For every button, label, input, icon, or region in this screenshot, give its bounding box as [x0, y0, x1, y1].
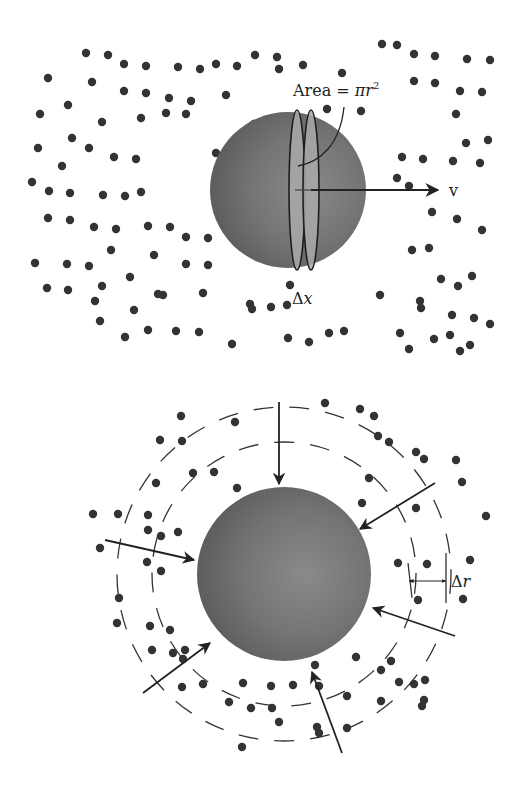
particle — [199, 289, 207, 297]
particle — [231, 418, 239, 426]
particle — [377, 697, 385, 705]
particle — [374, 432, 382, 440]
particle — [417, 304, 425, 312]
particle — [150, 251, 158, 259]
particle — [356, 405, 364, 413]
particle — [181, 646, 189, 654]
particle — [454, 282, 462, 290]
particle — [126, 273, 134, 281]
particle — [456, 87, 464, 95]
particle — [132, 155, 140, 163]
particle — [165, 94, 173, 102]
particle — [284, 334, 292, 342]
particle — [321, 399, 329, 407]
particle — [166, 626, 174, 634]
diagram-canvas: Area = πr2 v Δx Δr — [0, 0, 528, 785]
particle — [462, 139, 470, 147]
particle — [222, 91, 230, 99]
particle — [174, 63, 182, 71]
particle — [157, 532, 165, 540]
particle — [323, 105, 331, 113]
particle — [115, 594, 123, 602]
particle — [177, 412, 185, 420]
particle — [357, 107, 365, 115]
particle — [420, 455, 428, 463]
particle — [68, 134, 76, 142]
area-label: Area = πr2 — [292, 80, 379, 100]
particle — [468, 272, 476, 280]
particle — [91, 297, 99, 305]
particle — [159, 291, 167, 299]
particle — [410, 50, 418, 58]
particle — [178, 437, 186, 445]
particle — [478, 226, 486, 234]
particle — [148, 646, 156, 654]
particle — [456, 347, 464, 355]
particle — [64, 286, 72, 294]
particle — [452, 456, 460, 464]
particle — [377, 666, 385, 674]
particle — [412, 448, 420, 456]
particle — [482, 512, 490, 520]
particle — [446, 331, 454, 339]
particle — [398, 153, 406, 161]
particle — [325, 329, 333, 337]
particle — [299, 61, 307, 69]
particle — [430, 335, 438, 343]
particle — [172, 327, 180, 335]
particle — [466, 556, 474, 564]
particle — [85, 262, 93, 270]
particle — [104, 51, 112, 59]
particle — [146, 622, 154, 630]
particle — [66, 189, 74, 197]
particle — [268, 704, 276, 712]
particle — [414, 596, 422, 604]
particle — [394, 559, 402, 567]
particle — [169, 649, 177, 657]
particle — [340, 327, 348, 335]
particle — [315, 729, 323, 737]
particle — [431, 79, 439, 87]
particle — [189, 469, 197, 477]
particle — [85, 144, 93, 152]
particle — [137, 114, 145, 122]
particle — [484, 136, 492, 144]
particle — [239, 679, 247, 687]
particle — [410, 77, 418, 85]
particle — [88, 78, 96, 86]
particle — [387, 657, 395, 665]
particle — [305, 338, 313, 346]
particle — [343, 724, 351, 732]
particle — [453, 215, 461, 223]
particle — [210, 468, 218, 476]
particle — [144, 326, 152, 334]
particle — [137, 188, 145, 196]
particle — [428, 208, 436, 216]
delta-r-label: Δr — [451, 572, 472, 591]
particle — [405, 345, 413, 353]
particle — [419, 155, 427, 163]
particle — [58, 162, 66, 170]
particle — [393, 174, 401, 182]
particle — [66, 216, 74, 224]
particle — [142, 62, 150, 70]
particle — [28, 178, 36, 186]
particle — [99, 191, 107, 199]
particle — [251, 51, 259, 59]
particle — [385, 438, 393, 446]
particle — [36, 110, 44, 118]
particle — [182, 260, 190, 268]
particle — [486, 56, 494, 64]
particle — [144, 526, 152, 534]
particle — [143, 558, 151, 566]
particle — [365, 474, 373, 482]
particle — [470, 314, 478, 322]
particle — [358, 499, 366, 507]
particle — [174, 528, 182, 536]
particle — [418, 702, 426, 710]
particle — [120, 87, 128, 95]
particle — [98, 282, 106, 290]
particle — [233, 62, 241, 70]
particle — [212, 60, 220, 68]
particle — [107, 246, 115, 254]
